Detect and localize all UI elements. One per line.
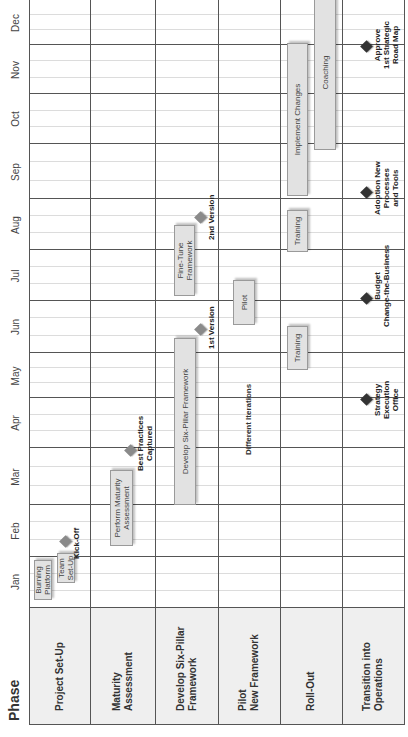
month-label-feb: Feb — [10, 506, 21, 556]
sub-gridline — [29, 283, 405, 284]
task-label: Training — [293, 334, 302, 363]
row-divider — [280, 0, 281, 725]
sub-gridline — [29, 430, 405, 431]
sub-gridline — [29, 77, 405, 78]
month-label-jul: Jul — [10, 251, 21, 301]
sub-gridline — [29, 14, 405, 15]
phase-column-title: Phase — [6, 680, 22, 721]
gridline — [29, 556, 405, 557]
task-bar-burning-platform: Burning Platform — [34, 560, 52, 600]
sub-gridline — [29, 367, 405, 368]
phase-name: Roll-Out — [305, 672, 317, 711]
milestone-label-best-practices: Best Practices Captured — [136, 416, 154, 471]
phase-header-project-setup: Project Set-Up — [29, 608, 90, 725]
milestone-label-kickoff: Kick-Off — [72, 528, 81, 559]
month-label-apr: Apr — [10, 398, 21, 448]
task-label: Team Set-Up — [57, 556, 75, 581]
sub-gridline — [29, 382, 405, 383]
gridline — [29, 607, 405, 608]
task-label: Develop Six-Pillar Framework — [181, 369, 190, 474]
row-divider — [342, 0, 343, 725]
milestone-label-1st-version: 1st Version — [207, 306, 216, 349]
task-label: Implement Changes — [293, 84, 302, 156]
phase-name: Transition into Operations — [361, 642, 385, 711]
task-bar-coaching: Coaching — [314, 0, 336, 150]
milestone-diamond-icon — [360, 186, 373, 199]
milestone-label-approve-roadmap: Approve 1st Strategic Road Map — [373, 21, 400, 69]
sub-gridline — [29, 317, 405, 318]
sub-gridline — [29, 485, 405, 486]
sub-gridline — [29, 414, 405, 415]
row-divider — [404, 0, 405, 725]
milestone-diamond-icon — [360, 40, 373, 53]
task-label: Burning Platform — [34, 565, 52, 595]
gridline — [29, 93, 405, 94]
phase-name: Pilot New Framework — [237, 634, 261, 711]
sub-gridline — [29, 590, 405, 591]
sub-gridline — [29, 573, 405, 574]
task-bar-training-1: Training — [287, 326, 308, 370]
row-divider — [90, 0, 91, 725]
gridline — [29, 504, 405, 505]
task-bar-training-2: Training — [287, 210, 308, 252]
gridline — [29, 352, 405, 353]
gridline — [29, 300, 405, 301]
task-bar-fine-tune-framework: Fine-Tune Framework — [174, 225, 195, 296]
task-bar-perform-maturity-assessment: Perform Maturity Assessment — [110, 470, 133, 546]
task-label: Fine-Tune Framework — [176, 241, 194, 281]
phase-header-maturity-assessment: Maturity Assessment — [90, 608, 155, 725]
gridline — [29, 249, 405, 250]
milestone-label-strategy-office: Strategy Execution Office — [373, 381, 400, 419]
task-label: Perform Maturity Assessment — [113, 478, 131, 537]
task-bar-implement-changes: Implement Changes — [287, 43, 308, 196]
milestone-diamond-icon — [194, 323, 207, 336]
annotation-different-iterations: Different Iterations — [244, 384, 253, 455]
month-label-mar: Mar — [10, 452, 21, 502]
sub-gridline — [29, 29, 405, 30]
milestone-label-adoption: Adoption New Processes and Tools — [373, 161, 400, 215]
sub-gridline — [29, 126, 405, 127]
phase-header-transition: Transition into Operations — [342, 608, 404, 725]
gridline — [29, 397, 405, 398]
month-label-sep: Sep — [10, 147, 21, 197]
month-label-jan: Jan — [10, 557, 21, 607]
month-label-oct: Oct — [10, 94, 21, 144]
gridline — [29, 143, 405, 144]
gridline — [29, 724, 405, 725]
milestone-diamond-icon — [360, 393, 373, 406]
gridline — [29, 447, 405, 448]
phase-header-develop-framework: Develop Six-Pillar Framework — [155, 608, 218, 725]
task-bar-pilot: Pilot — [233, 280, 255, 325]
task-label: Training — [293, 217, 302, 246]
sub-gridline — [29, 232, 405, 233]
gridline — [29, 44, 405, 45]
task-label: Pilot — [240, 295, 249, 311]
milestone-diamond-icon — [194, 211, 207, 224]
task-bar-develop-framework: Develop Six-Pillar Framework — [174, 338, 196, 505]
task-label: Coaching — [321, 56, 330, 90]
phase-header-rollout: Roll-Out — [280, 608, 342, 725]
month-label-jun: Jun — [10, 302, 21, 352]
sub-gridline — [29, 161, 405, 162]
sub-gridline — [29, 215, 405, 216]
sub-gridline — [29, 335, 405, 336]
phase-name: Develop Six-Pillar Framework — [175, 627, 199, 711]
phase-name: Project Set-Up — [54, 642, 66, 711]
sub-gridline — [29, 110, 405, 111]
sub-gridline — [29, 521, 405, 522]
month-label-may: May — [10, 351, 21, 401]
sub-gridline — [29, 266, 405, 267]
sub-gridline — [29, 60, 405, 61]
sub-gridline — [29, 466, 405, 467]
phase-header-pilot: Pilot New Framework — [218, 608, 280, 725]
row-divider — [218, 0, 219, 725]
milestone-diamond-icon — [360, 292, 373, 305]
month-label-aug: Aug — [10, 200, 21, 250]
sub-gridline — [29, 539, 405, 540]
gantt-chart: Phase Jan Feb Mar Apr May Jun Jul Aug Se… — [0, 0, 408, 737]
milestone-diamond-icon — [59, 535, 72, 548]
month-label-nov: Nov — [10, 45, 21, 95]
milestone-label-2nd-version: 2nd Version — [207, 195, 216, 240]
sub-gridline — [29, 180, 405, 181]
milestone-label-budget: Budget Change-the-Business — [373, 245, 391, 327]
